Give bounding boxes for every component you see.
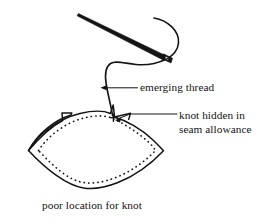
leader-line-emerging-thread xyxy=(101,85,138,90)
label-emerging-thread: emerging thread xyxy=(140,81,214,95)
needle-shaft xyxy=(77,14,167,61)
label-knot-hidden-line-1: knot hidden in xyxy=(179,109,252,123)
arrowhead-emerging-thread xyxy=(101,85,107,90)
label-knot-hidden-line-2: seam allowance xyxy=(179,123,252,137)
figure-canvas: emerging thread knot hidden in seam allo… xyxy=(0,0,272,223)
needle-icon xyxy=(77,14,173,64)
label-knot-hidden-in-seam-allowance: knot hidden in seam allowance xyxy=(179,109,252,136)
figure-caption: poor location for knot xyxy=(42,199,142,213)
fabric-outline xyxy=(29,105,164,188)
fabric-piece xyxy=(29,105,164,188)
